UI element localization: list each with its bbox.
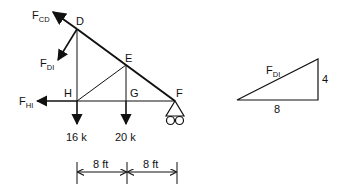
node-label-g: G <box>130 87 139 99</box>
load-label-20k: 20 k <box>115 131 136 143</box>
force-label-hi: FHI <box>19 95 33 110</box>
slope-label-hypotenuse: FDI <box>266 64 280 79</box>
force-label-cd: FCD <box>32 9 50 24</box>
force-cd-arrow <box>53 12 77 29</box>
dimension-label-left: 8 ft <box>93 158 108 170</box>
force-di-arrow <box>58 29 77 60</box>
force-label-di: FDI <box>40 57 54 72</box>
dimension-label-right: 8 ft <box>143 158 158 170</box>
member-he <box>77 65 126 101</box>
slope-label-vertical: 4 <box>322 73 328 85</box>
truss-free-body-diagram: D E G H F FCD FDI FHI 16 k 20 k 8 ft 8 f… <box>0 0 343 195</box>
dimension-lines <box>77 162 177 184</box>
load-label-16k: 16 k <box>66 131 87 143</box>
slope-triangle <box>237 59 318 100</box>
node-label-f: F <box>176 87 183 99</box>
node-label-e: E <box>125 52 132 64</box>
slope-label-horizontal: 8 <box>274 103 280 115</box>
roller-support-icon <box>166 101 184 125</box>
node-label-d: D <box>76 15 84 27</box>
node-label-h: H <box>64 87 72 99</box>
